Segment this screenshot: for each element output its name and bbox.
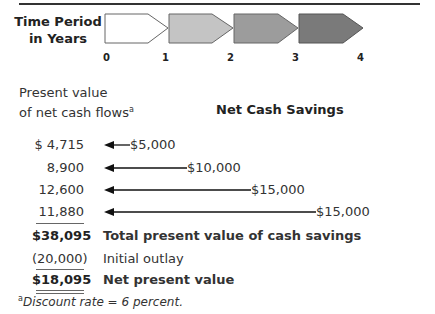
pv-header-line2: of net cash flows — [19, 105, 129, 120]
subtotal-rule — [36, 223, 84, 224]
arrow-left-icon — [104, 163, 187, 173]
pv-header-line1: Present value — [19, 84, 134, 101]
top-rule — [19, 3, 420, 5]
tick-3: 3 — [292, 52, 299, 63]
timeline-arrows — [104, 13, 364, 45]
time-period-line1: Time Period — [14, 13, 102, 30]
timeline-segment-2 — [234, 14, 298, 43]
footnote-text: Discount rate = 6 percent. — [23, 295, 183, 309]
pv-header: Present value of net cash flowsa — [19, 84, 134, 121]
timeline-segment-0 — [105, 14, 168, 43]
tick-1: 1 — [162, 52, 169, 63]
arrow-left-icon — [104, 207, 316, 217]
pv-year-1: $ 4,715 — [32, 137, 84, 152]
footnote: aDiscount rate = 6 percent. — [18, 294, 183, 309]
initial-outlay-label: Initial outlay — [103, 251, 184, 266]
outlay-rule — [36, 269, 84, 270]
time-period-label: Time Period in Years — [14, 13, 102, 47]
arrow-left-icon — [104, 185, 251, 195]
arrow-left-icon — [104, 140, 130, 150]
tick-0: 0 — [103, 52, 110, 63]
cash-year-1: $5,000 — [130, 137, 176, 152]
double-rule-top — [36, 290, 84, 291]
time-period-line2: in Years — [14, 30, 102, 47]
npv-value: $18,095 — [32, 272, 84, 287]
pv-year-2: 8,900 — [32, 160, 84, 175]
total-pv-label: Total present value of cash savings — [103, 228, 361, 243]
footnote-mark: a — [129, 105, 134, 114]
cash-year-2: $10,000 — [187, 160, 241, 175]
net-cash-savings-header: Net Cash Savings — [216, 101, 344, 118]
tick-4: 4 — [357, 52, 364, 63]
timeline-segment-1 — [169, 14, 233, 43]
cash-year-4: $15,000 — [316, 204, 370, 219]
timeline-segment-3 — [299, 14, 363, 43]
cash-year-3: $15,000 — [251, 182, 305, 197]
pv-year-4: 11,880 — [32, 204, 84, 219]
total-pv-value: $38,095 — [32, 228, 84, 243]
initial-outlay-value: (20,000) — [32, 251, 84, 266]
npv-label: Net present value — [103, 272, 234, 287]
pv-year-3: 12,600 — [32, 182, 84, 197]
tick-2: 2 — [227, 52, 234, 63]
